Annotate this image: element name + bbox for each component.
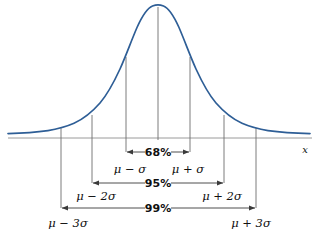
normal-curve <box>8 5 310 134</box>
dimension-95: 95% μ − 2σ μ + 2σ <box>76 177 243 204</box>
percent-label-99: 99% <box>145 202 171 215</box>
x-axis-label: x <box>302 144 308 155</box>
percent-label-95: 95% <box>145 177 171 190</box>
dimension-68: 68% μ − σ μ + σ <box>114 146 205 177</box>
bound-label-mu-minus-sigma: μ − σ <box>114 162 147 176</box>
bound-label-mu-plus-3sigma: μ + 3σ <box>231 216 272 230</box>
bound-label-mu-plus-2sigma: μ + 2σ <box>202 189 243 203</box>
distribution-canvas: 68% μ − σ μ + σ 95% μ − 2σ μ + 2σ 99% μ … <box>0 0 317 236</box>
bound-label-mu-plus-sigma: μ + σ <box>172 162 205 176</box>
dimension-99: 99% μ − 3σ μ + 3σ <box>48 202 272 231</box>
normal-distribution-figure: 68% μ − σ μ + σ 95% μ − 2σ μ + 2σ 99% μ … <box>0 0 317 236</box>
percent-label-68: 68% <box>145 146 171 159</box>
bound-label-mu-minus-3sigma: μ − 3σ <box>48 216 89 230</box>
bound-label-mu-minus-2sigma: μ − 2σ <box>76 189 117 203</box>
